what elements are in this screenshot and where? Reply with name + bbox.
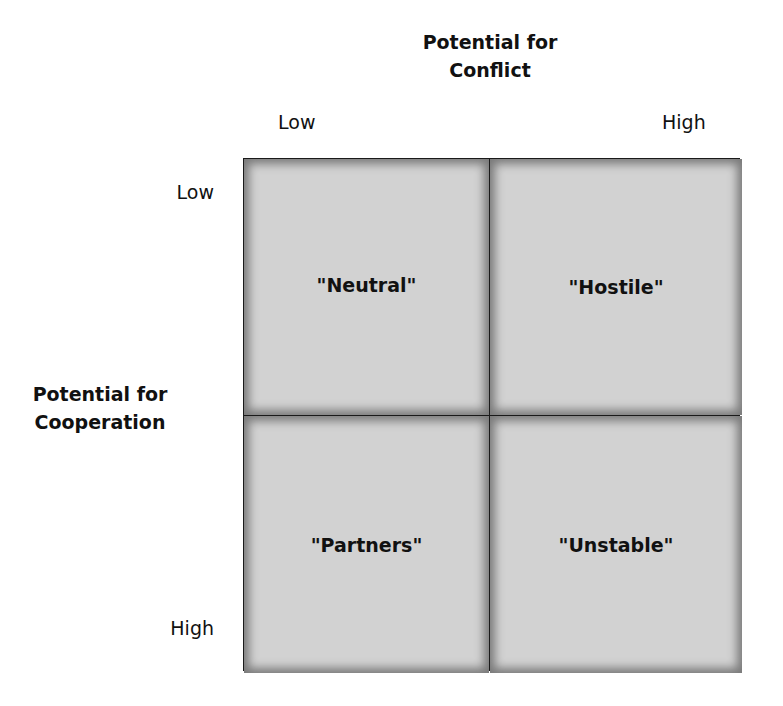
quadrant-label: "Hostile" <box>568 276 663 298</box>
y-axis-title-line1: Potential for <box>10 380 190 408</box>
quadrant-neutral: "Neutral" <box>244 159 489 415</box>
y-axis-title: Potential for Cooperation <box>10 380 190 436</box>
y-axis-high-label: High <box>150 616 214 640</box>
y-axis-low-label: Low <box>160 180 214 204</box>
y-axis-title-line2: Cooperation <box>10 408 190 436</box>
x-axis-low-label: Low <box>278 110 315 134</box>
quadrant-hostile: "Hostile" <box>490 159 742 415</box>
x-axis-high-label: High <box>662 110 706 134</box>
quadrant-matrix: "Neutral" "Hostile" "Partners" "Unstable… <box>243 158 740 671</box>
x-axis-title-line1: Potential for <box>390 28 590 56</box>
x-axis-title-line2: Conflict <box>390 56 590 84</box>
quadrant-label: "Unstable" <box>559 534 674 556</box>
quadrant-unstable: "Unstable" <box>490 416 742 673</box>
quadrant-label: "Neutral" <box>317 274 417 296</box>
quadrant-label: "Partners" <box>311 534 423 556</box>
x-axis-title: Potential for Conflict <box>390 28 590 84</box>
quadrant-partners: "Partners" <box>244 416 489 673</box>
